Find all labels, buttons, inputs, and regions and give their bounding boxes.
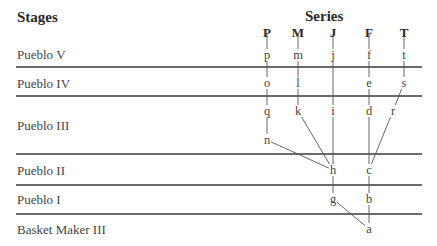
stage-label: Pueblo III (17, 118, 69, 134)
stage-label: Basket Maker III (17, 222, 106, 238)
phase-node: j (330, 49, 335, 61)
series-connector (298, 111, 333, 170)
phase-node: b (365, 193, 373, 205)
series-column-header: P (263, 25, 271, 41)
series-column-header: M (292, 25, 304, 41)
stage-label: Pueblo IV (17, 76, 70, 92)
series-column-header: F (365, 25, 373, 41)
phase-node: a (365, 223, 373, 235)
phase-node: i (330, 105, 335, 117)
series-connector (267, 140, 333, 170)
phase-node: q (263, 105, 271, 117)
phase-node: h (329, 164, 337, 176)
phase-node: m (292, 49, 304, 61)
stage-label: Pueblo V (17, 47, 66, 63)
phase-node: d (365, 105, 373, 117)
phase-node: t (401, 49, 406, 61)
phase-node: f (366, 49, 372, 61)
phase-node: k (294, 105, 302, 117)
phase-node: g (329, 193, 337, 205)
series-column-header: T (400, 25, 409, 41)
series-column-header: J (330, 25, 337, 41)
phase-node: c (365, 164, 373, 176)
stage-label: Pueblo II (17, 163, 65, 179)
stage-label: Pueblo I (17, 192, 61, 208)
phase-node: l (295, 77, 300, 89)
series-connector (369, 111, 393, 170)
phase-node: n (263, 134, 271, 146)
phase-node: p (263, 49, 271, 61)
phase-node: r (390, 105, 396, 117)
phase-node: e (365, 77, 373, 89)
phase-node: o (263, 77, 271, 89)
phase-node: s (401, 77, 408, 89)
